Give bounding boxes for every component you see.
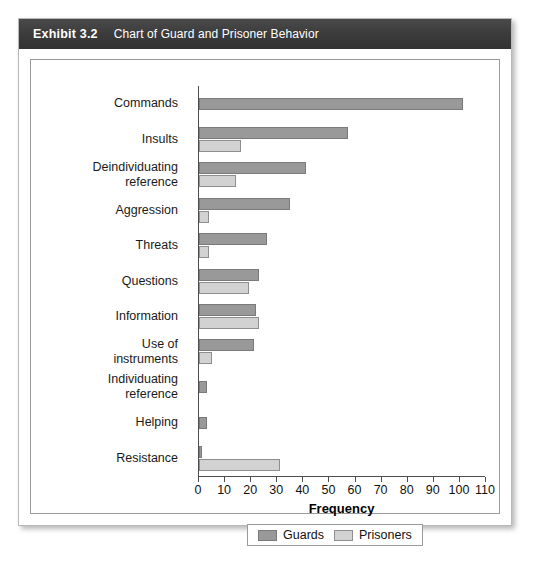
legend-item-prisoners: Prisoners: [334, 528, 412, 542]
bar-prisoners: [199, 282, 249, 294]
bar-guards: [199, 162, 306, 174]
legend-swatch-prisoners-icon: [334, 530, 353, 541]
x-axis-title: Frequency: [198, 501, 485, 516]
x-tick: [381, 477, 382, 482]
bar-guards: [199, 127, 348, 139]
exhibit-header: Exhibit 3.2 Chart of Guard and Prisoner …: [19, 19, 511, 49]
bar-guards: [199, 339, 254, 351]
legend-label-prisoners: Prisoners: [359, 528, 412, 542]
bar-prisoners: [199, 175, 236, 187]
bar-guards: [199, 304, 256, 316]
x-tick: [407, 477, 408, 482]
x-tick-label: 40: [295, 483, 309, 497]
x-tick: [276, 477, 277, 482]
category-label: Information: [31, 309, 186, 324]
x-tick: [198, 477, 199, 482]
bar-guards: [199, 446, 202, 458]
x-tick-label: 50: [322, 483, 336, 497]
legend-swatch-guards-icon: [258, 530, 277, 541]
bars-layer: [199, 86, 499, 476]
x-tick-label: 70: [374, 483, 388, 497]
x-tick-label: 110: [475, 483, 495, 497]
legend-item-guards: Guards: [258, 528, 324, 542]
x-tick: [459, 477, 460, 482]
bar-prisoners: [199, 211, 209, 223]
exhibit-title: Chart of Guard and Prisoner Behavior: [114, 27, 319, 41]
bar-guards: [199, 233, 267, 245]
x-tick: [224, 477, 225, 482]
category-label: Aggression: [31, 203, 186, 218]
x-tick-label: 100: [448, 483, 469, 497]
bar-prisoners: [199, 352, 212, 364]
category-label: Helping: [31, 415, 186, 430]
bar-guards: [199, 381, 207, 393]
bar-guards: [199, 417, 207, 429]
x-tick: [302, 477, 303, 482]
x-tick: [485, 477, 486, 482]
exhibit-card: Exhibit 3.2 Chart of Guard and Prisoner …: [18, 18, 512, 526]
x-tick: [355, 477, 356, 482]
x-tick-label: 10: [217, 483, 231, 497]
category-label: Insults: [31, 132, 186, 147]
category-label: Threats: [31, 238, 186, 253]
page-root: Exhibit 3.2 Chart of Guard and Prisoner …: [0, 0, 550, 568]
bar-prisoners: [199, 140, 241, 152]
bar-prisoners: [199, 459, 280, 471]
bar-prisoners: [199, 246, 209, 258]
category-label: Commands: [31, 96, 186, 111]
legend-label-guards: Guards: [283, 528, 324, 542]
category-label: Resistance: [31, 451, 186, 466]
x-tick-label: 20: [243, 483, 257, 497]
category-label: Individuatingreference: [31, 372, 186, 402]
x-axis-line: [198, 476, 485, 477]
x-tick-label: 90: [426, 483, 440, 497]
bar-guards: [199, 198, 290, 210]
bar-chart: CommandsInsultsDeindividuatingreferenceA…: [31, 60, 501, 515]
x-tick-label: 0: [195, 483, 202, 497]
x-tick-label: 30: [269, 483, 283, 497]
exhibit-number: Exhibit 3.2: [33, 27, 98, 41]
category-label: Use ofinstruments: [31, 337, 186, 367]
x-tick: [250, 477, 251, 482]
x-tick: [328, 477, 329, 482]
chart-legend: Guards Prisoners: [247, 524, 423, 546]
x-tick-label: 60: [348, 483, 362, 497]
chart-frame: CommandsInsultsDeindividuatingreferenceA…: [30, 59, 500, 514]
x-tick: [433, 477, 434, 482]
bar-prisoners: [199, 317, 259, 329]
bar-guards: [199, 98, 463, 110]
bar-guards: [199, 269, 259, 281]
category-label: Deindividuatingreference: [31, 160, 186, 190]
category-label: Questions: [31, 274, 186, 289]
x-tick-label: 80: [400, 483, 414, 497]
